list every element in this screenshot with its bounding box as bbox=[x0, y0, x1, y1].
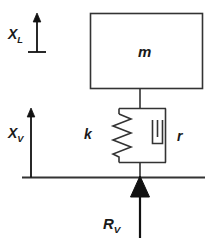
spring-label-base: k bbox=[84, 126, 92, 142]
force-arrow bbox=[131, 176, 150, 238]
spring bbox=[113, 109, 131, 163]
mass-label: m bbox=[138, 44, 151, 63]
xv-arrowhead bbox=[27, 108, 35, 117]
spring-zigzag bbox=[113, 114, 131, 163]
xv-label-base: X bbox=[8, 125, 17, 141]
spring-label: k bbox=[84, 127, 92, 145]
damper-label-base: r bbox=[177, 128, 182, 144]
mass-spring-damper-diagram: m k r XL XV RV bbox=[0, 0, 212, 246]
xl-label-sub: L bbox=[17, 35, 23, 45]
diagram-canvas bbox=[0, 0, 212, 246]
displacement-arrow-load bbox=[28, 13, 46, 52]
mass-label-base: m bbox=[138, 43, 151, 60]
xl-label-base: X bbox=[8, 26, 17, 42]
force-valve-label: RV bbox=[103, 216, 120, 235]
force-arrowhead bbox=[131, 176, 150, 197]
rv-label-sub: V bbox=[114, 224, 121, 235]
damper-label: r bbox=[177, 129, 182, 147]
xl-arrowhead bbox=[33, 13, 41, 22]
rv-label-base: R bbox=[103, 215, 114, 232]
damper bbox=[153, 109, 166, 163]
displacement-load-label: XL bbox=[8, 27, 23, 45]
displacement-arrow-valve bbox=[27, 108, 35, 178]
xv-label-sub: V bbox=[17, 134, 23, 144]
displacement-valve-label: XV bbox=[8, 126, 24, 144]
